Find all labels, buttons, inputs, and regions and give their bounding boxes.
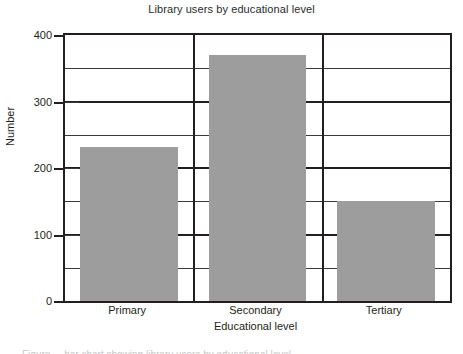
plot-area: 0100200300400	[63, 33, 452, 303]
y-axis-tick-label: 400	[34, 30, 52, 41]
y-axis-tick-inner-minor	[65, 268, 79, 269]
y-axis-tick	[54, 102, 63, 104]
y-axis-tick-label: 200	[34, 163, 52, 174]
y-axis-tick-label: 0	[46, 296, 52, 307]
y-axis-title: Number	[4, 133, 17, 146]
y-axis-tick-inner	[65, 168, 79, 169]
figure-caption-sliver: Figure ... bar chart showing library use…	[22, 349, 352, 354]
y-axis-tick	[54, 35, 63, 37]
bar-secondary	[209, 55, 307, 301]
bar-chart-figure: Library users by educational level Numbe…	[0, 0, 463, 354]
category-divider	[193, 35, 195, 301]
x-axis-title: Educational level	[63, 320, 448, 333]
y-axis-tick-inner-minor	[65, 135, 79, 136]
bar-primary	[80, 147, 178, 301]
y-axis-tick-inner	[65, 102, 79, 103]
plot-inner: 0100200300400	[65, 35, 450, 301]
chart-title: Library users by educational level	[0, 2, 463, 16]
bar-tertiary	[337, 201, 435, 301]
y-axis-tick	[54, 168, 63, 170]
y-axis-tick-inner	[65, 235, 79, 236]
y-axis-tick-label: 100	[34, 229, 52, 240]
y-axis-tick-label: 300	[34, 96, 52, 107]
x-axis-category-label-secondary: Secondary	[191, 304, 319, 317]
y-axis-tick	[54, 235, 63, 237]
x-axis-category-label-tertiary: Tertiary	[320, 304, 448, 317]
y-axis-tick-inner-minor	[65, 68, 79, 69]
y-axis-tick	[54, 301, 63, 303]
category-divider	[322, 35, 324, 301]
y-axis-tick-inner-minor	[65, 201, 79, 202]
x-axis-category-label-primary: Primary	[63, 304, 191, 317]
